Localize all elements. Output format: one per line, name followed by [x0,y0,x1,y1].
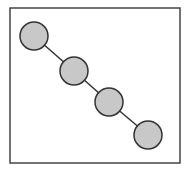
node-circle-1 [20,22,48,50]
node-circle-3 [95,88,123,116]
node-circle-4 [134,121,162,149]
node-circle-2 [60,57,88,85]
diagram-canvas [0,0,191,173]
